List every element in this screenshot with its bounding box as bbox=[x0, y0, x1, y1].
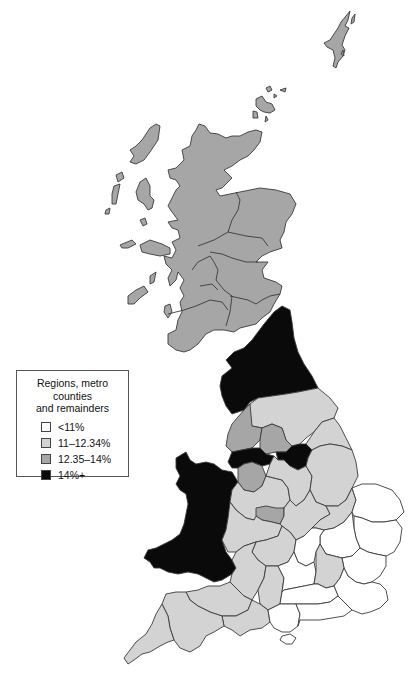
legend-title-line2: and remainders bbox=[17, 402, 128, 415]
region-cornwall bbox=[124, 604, 174, 664]
legend-title-line1: Regions, metro counties bbox=[17, 377, 128, 402]
legend-label: <11% bbox=[58, 421, 84, 433]
legend-label: 12.35–14% bbox=[58, 453, 111, 465]
legend-item-11-12: 11–12.34% bbox=[41, 435, 128, 451]
legend-swatch-black bbox=[41, 470, 51, 480]
legend-title: Regions, metro counties and remainders bbox=[17, 377, 128, 415]
shetland-islands bbox=[324, 11, 355, 68]
region-wales bbox=[144, 452, 238, 582]
region-norfolk bbox=[352, 484, 404, 522]
uk-choropleth-map bbox=[0, 0, 420, 673]
region-hampshire bbox=[268, 604, 300, 632]
legend-swatch-white bbox=[41, 422, 51, 432]
legend-swatch-medium-grey bbox=[41, 454, 51, 464]
map-legend: Regions, metro counties and remainders <… bbox=[16, 370, 129, 477]
inner-hebrides bbox=[120, 178, 172, 318]
legend-label: 14%+ bbox=[58, 469, 85, 481]
legend-item-12-14: 12.35–14% bbox=[41, 451, 128, 467]
orkney-islands bbox=[253, 86, 286, 122]
legend-items: <11% 11–12.34% 12.35–14% 14%+ bbox=[17, 419, 128, 483]
legend-label: 11–12.34% bbox=[58, 437, 110, 449]
isle-of-wight bbox=[280, 634, 296, 644]
legend-item-14plus: 14%+ bbox=[41, 467, 128, 483]
legend-swatch-light-grey bbox=[41, 438, 51, 448]
legend-item-lt11: <11% bbox=[41, 419, 128, 435]
